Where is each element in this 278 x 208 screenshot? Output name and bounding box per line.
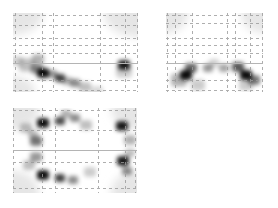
heatmap-canvas <box>13 108 137 193</box>
heatmap-panel-1 <box>13 13 138 92</box>
heatmap-canvas <box>13 13 138 92</box>
heatmap-panel-3 <box>13 108 137 193</box>
heatmap-panel-2 <box>166 13 263 92</box>
heatmap-canvas <box>166 13 263 92</box>
